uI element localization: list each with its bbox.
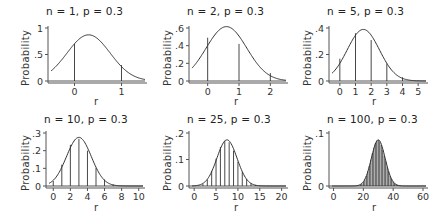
plot-area: 0.1.2.30246810 [0, 108, 148, 216]
x-tick-label: 2 [267, 86, 273, 97]
x-tick-label: 0 [191, 191, 197, 202]
y-tick-label: 0 [37, 76, 43, 87]
x-tick-label: 2 [368, 86, 374, 97]
y-tick-label: .2 [175, 58, 184, 69]
x-tick-label: 20 [276, 191, 288, 202]
panel-n2: n = 2, p = 0.3 Probability r 0.2.4.6012 [146, 0, 294, 108]
chart-grid: n = 1, p = 0.3 Probability r 0.5101 n = … [0, 0, 446, 216]
x-tick-label: 4 [399, 86, 405, 97]
x-tick-label: 20 [357, 191, 369, 202]
normal-curve [332, 140, 426, 186]
y-tick-label: .6 [175, 23, 184, 34]
x-tick-label: 0 [337, 86, 343, 97]
plot-area: 0.2.4012345 [296, 0, 446, 108]
x-tick-label: 1 [236, 86, 242, 97]
panel-n25: n = 25, p = 0.3 Probability r 0.1.205101… [146, 108, 294, 216]
x-tick-label: 60 [417, 191, 429, 202]
y-tick-label: .1 [32, 163, 41, 174]
y-tick-label: .4 [175, 40, 184, 51]
panel-n10: n = 10, p = 0.3 Probability r 0.1.2.3024… [0, 108, 148, 216]
normal-curve [192, 140, 286, 186]
plot-area: 0.10204060 [296, 108, 446, 216]
x-tick-label: 0 [71, 86, 77, 97]
x-tick-label: 4 [84, 191, 90, 202]
x-tick-label: 10 [232, 191, 244, 202]
x-tick-label: 0 [205, 86, 211, 97]
x-tick-label: 8 [119, 191, 125, 202]
x-tick-label: 3 [384, 86, 390, 97]
y-tick-label: 1 [37, 23, 43, 34]
y-tick-label: .1 [175, 154, 184, 165]
plot-area: 0.5101 [0, 0, 148, 108]
x-tick-label: 40 [387, 191, 399, 202]
y-tick-label: .2 [32, 145, 41, 156]
panel-n5: n = 5, p = 0.3 Probability r 0.2.4012345 [296, 0, 444, 108]
y-tick-label: .2 [175, 128, 184, 139]
y-tick-label: .5 [34, 49, 43, 60]
y-tick-label: 0 [178, 181, 184, 192]
normal-curve [332, 29, 426, 81]
x-tick-label: 1 [118, 86, 124, 97]
plot-area: 0.2.4.6012 [146, 0, 294, 108]
x-tick-label: 15 [254, 191, 266, 202]
x-tick-label: 0 [330, 191, 336, 202]
y-tick-label: 0 [318, 181, 324, 192]
y-tick-label: 0 [35, 181, 41, 192]
x-tick-label: 0 [50, 191, 56, 202]
y-tick-label: .1 [315, 128, 324, 139]
x-tick-label: 5 [213, 191, 219, 202]
y-tick-label: .3 [32, 128, 41, 139]
y-tick-label: 0 [178, 76, 184, 87]
y-tick-label: 0 [318, 76, 324, 87]
panel-n100: n = 100, p = 0.3 Probability r 0.1020406… [296, 108, 444, 216]
normal-curve [51, 35, 145, 80]
y-tick-label: .4 [315, 23, 324, 34]
x-tick-label: 5 [415, 86, 421, 97]
x-tick-label: 10 [133, 191, 145, 202]
y-tick-label: .2 [315, 49, 324, 60]
x-tick-label: 2 [67, 191, 73, 202]
x-tick-label: 1 [352, 86, 358, 97]
plot-area: 0.1.205101520 [146, 108, 294, 216]
x-tick-label: 6 [102, 191, 108, 202]
panel-n1: n = 1, p = 0.3 Probability r 0.5101 [0, 0, 148, 108]
